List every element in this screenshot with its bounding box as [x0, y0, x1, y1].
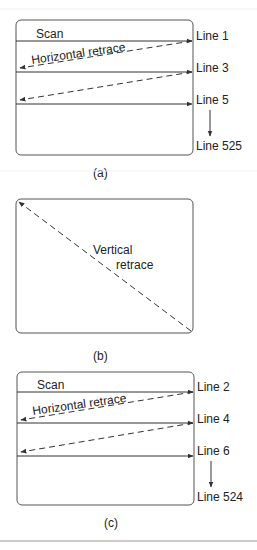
line-label: Line 2	[197, 380, 230, 394]
line-label: Line 6	[197, 444, 230, 458]
horizontal-retrace-2	[21, 423, 193, 452]
horizontal-retrace-2	[20, 72, 192, 100]
line-label: Line 524	[197, 490, 243, 504]
horizontal-retrace-label-a: Horizontal retrace	[30, 40, 126, 67]
interlaced-scan-diagram: Scan Horizontal retrace Line 1 Line 3 Li…	[0, 0, 257, 550]
line-label: Line 5	[196, 93, 229, 107]
caption-c: (c)	[104, 516, 118, 530]
panel-b: Vertical retrace (b)	[16, 199, 193, 363]
vertical-retrace-line	[19, 202, 191, 331]
line-label: Line 1	[196, 29, 229, 43]
vertical-retrace-label-line2: retrace	[116, 258, 154, 272]
scan-label-c: Scan	[37, 378, 64, 392]
caption-b: (b)	[93, 349, 108, 363]
panel-c: Scan Horizontal retrace Line 2 Line 4 Li…	[17, 372, 243, 530]
horizontal-retrace-label-c: Horizontal retrace	[31, 391, 127, 418]
line-label: Line 4	[197, 412, 230, 426]
line-label: Line 3	[196, 61, 229, 75]
scan-label-a: Scan	[36, 27, 63, 41]
panel-a: Scan Horizontal retrace Line 1 Line 3 Li…	[0, 20, 257, 180]
vertical-retrace-label-line1: Vertical	[93, 243, 132, 257]
caption-a: (a)	[93, 166, 108, 180]
line-label: Line 525	[196, 139, 242, 153]
